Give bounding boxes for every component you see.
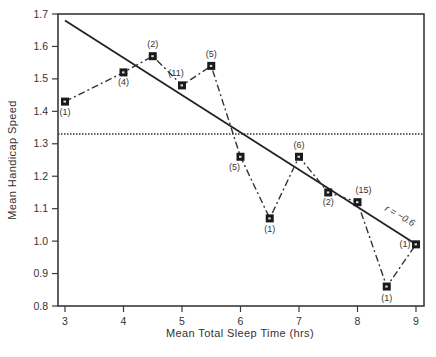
y-tick-label: 1.1 [33,202,48,214]
x-tick-label: 3 [62,315,68,327]
sample-size-label: (2) [323,197,334,207]
data-point: (1) [400,239,421,249]
sample-size-label: (15) [355,185,371,195]
sample-size-label: (1) [264,224,275,234]
y-tick-label: 0.8 [33,300,48,312]
data-point: (5) [206,49,217,70]
y-tick-label: 1.2 [33,170,48,182]
marker-highlight [239,156,242,158]
sample-size-label: (5) [229,162,240,172]
data-point: (1) [264,214,275,234]
sample-size-label: (6) [294,140,305,150]
correlation-annotation: r = −0.6 [383,202,417,228]
marker-highlight [64,101,67,103]
data-point: (15) [354,185,372,206]
series-layer: (1)(4)(2)(11)(5)(5)(1)(6)(2)(15)(1)(1) [58,20,424,302]
marker-highlight [122,71,125,73]
y-tick-label: 1.3 [33,137,48,149]
marker-highlight [298,156,301,158]
x-tick-label: 9 [413,315,419,327]
data-point: (1) [381,283,392,303]
marker-highlight [181,84,184,86]
y-axis-title: Mean Handicap Speed [6,100,18,220]
sample-size-label: (5) [206,49,217,59]
x-axis-title: Mean Total Sleep Time (hrs) [166,327,314,339]
sample-size-label: (1) [60,107,71,117]
x-tick-label: 8 [355,315,361,327]
data-point: (11) [168,68,186,89]
sample-size-label: (11) [168,68,183,78]
data-point: (1) [60,98,71,117]
marker-highlight [210,65,213,67]
y-tick-label: 1.6 [33,40,48,52]
marker-highlight [268,217,271,219]
data-point: (6) [294,140,305,161]
sample-size-label: (4) [118,77,129,87]
y-tick-label: 0.9 [33,267,48,279]
x-tick-label: 6 [238,315,244,327]
sleep-speed-chart: 0.80.91.01.11.21.31.41.51.61.7 3456789 M… [0,0,436,357]
marker-highlight [415,243,418,245]
y-tick-label: 1.7 [33,8,48,20]
sample-size-label: (1) [400,239,411,249]
data-point: (2) [323,188,334,207]
marker-highlight [356,201,359,203]
y-axis: 0.80.91.01.11.21.31.41.51.61.7 [33,8,58,312]
y-tick-label: 1.5 [33,72,48,84]
regression-line [65,20,416,244]
sample-size-label: (2) [147,39,158,49]
y-tick-label: 1.0 [33,235,48,247]
data-point: (2) [147,39,158,60]
data-point: (4) [118,68,129,87]
x-tick-label: 5 [179,315,185,327]
y-tick-label: 1.4 [33,105,48,117]
data-point: (5) [229,153,245,172]
x-tick-label: 4 [121,315,127,327]
marker-highlight [327,191,330,193]
marker-highlight [151,55,154,57]
x-tick-label: 7 [296,315,302,327]
sample-size-label: (1) [381,293,392,303]
marker-highlight [385,286,388,288]
annotations: r = −0.6 [383,202,417,228]
observed-dashdot-line [65,56,416,286]
x-axis: 3456789 [62,306,419,327]
